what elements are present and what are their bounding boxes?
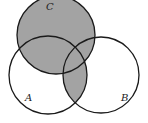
label-b: B bbox=[120, 92, 128, 103]
label-c: C bbox=[46, 1, 54, 12]
venn-diagram: C A B bbox=[0, 0, 148, 123]
label-a: A bbox=[24, 92, 32, 103]
